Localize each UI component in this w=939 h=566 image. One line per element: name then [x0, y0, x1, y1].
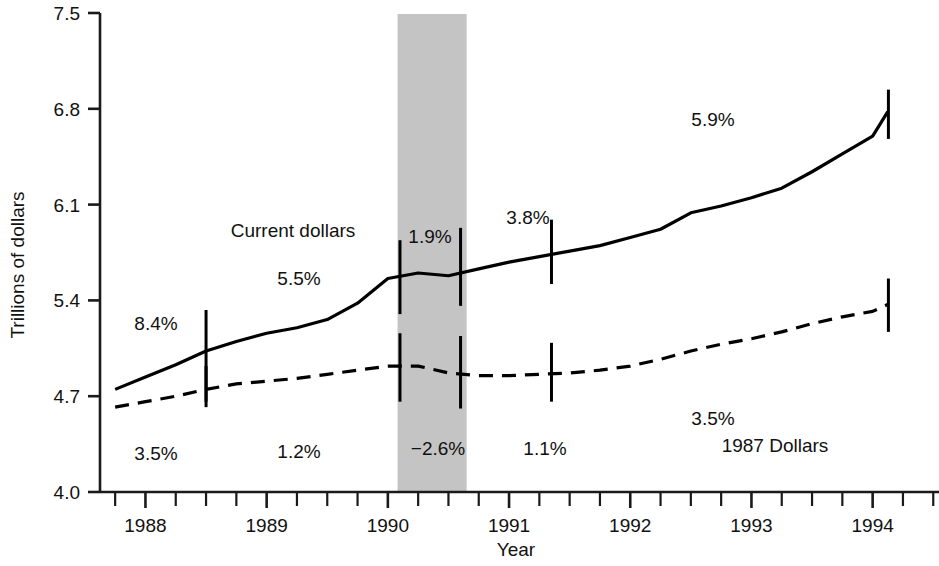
y-tick-label: 5.4: [54, 290, 81, 311]
y-tick-label: 4.0: [54, 482, 80, 503]
growth-label-5-5: 5.5%: [277, 268, 320, 289]
x-tick-label: 1989: [246, 515, 288, 536]
growth-label-1-2: 1.2%: [277, 441, 320, 462]
growth-label-3-8: 3.8%: [506, 207, 549, 228]
x-axis-title: Year: [497, 539, 536, 560]
growth-label-1-9: 1.9%: [408, 226, 451, 247]
y-tick-label: 6.8: [54, 99, 80, 120]
x-tick-label: 1993: [730, 515, 772, 536]
chart-figure: 4.04.75.46.16.87.5 198819891990199119921…: [0, 0, 939, 566]
x-tick-label: 1994: [852, 515, 895, 536]
growth-label-8-4: 8.4%: [134, 313, 177, 334]
growth-label-3-5-right: 3.5%: [691, 408, 734, 429]
growth-label-minus-2-6: −2.6%: [411, 438, 466, 459]
x-tick-label: 1992: [609, 515, 651, 536]
recession-shaded-band: [398, 14, 467, 492]
recession-band-rect: [398, 14, 467, 492]
growth-label-1-1: 1.1%: [523, 438, 566, 459]
series-label-1987-dollars: 1987 Dollars: [722, 435, 829, 456]
growth-label-3-5-left: 3.5%: [134, 443, 177, 464]
y-tick-label: 4.7: [54, 386, 80, 407]
x-tick-label: 1991: [488, 515, 530, 536]
y-tick-label: 6.1: [54, 195, 80, 216]
growth-label-5-9: 5.9%: [691, 109, 734, 130]
y-tick-label: 7.5: [54, 3, 80, 24]
x-tick-label: 1988: [124, 515, 166, 536]
series-label-current-dollars: Current dollars: [231, 220, 356, 241]
x-tick-label: 1990: [367, 515, 409, 536]
gdp-line-chart: 4.04.75.46.16.87.5 198819891990199119921…: [0, 0, 939, 566]
chart-background: [0, 0, 939, 566]
y-axis-title: Trillions of dollars: [7, 191, 28, 338]
